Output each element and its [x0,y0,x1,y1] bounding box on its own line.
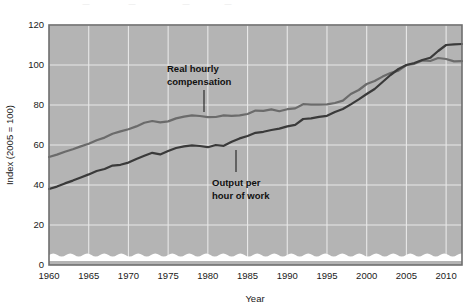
cropped-text-fragment-2: — [183,0,190,7]
x-tick-label-1960: 1960 [38,270,59,281]
x-tick-label-1970: 1970 [118,270,139,281]
y-tick-label-80: 80 [33,99,44,110]
x-tick-label-1985: 1985 [237,270,258,281]
cropped-text-fragment-0: — [83,0,90,7]
annotation-compensation-line2: compensation [167,76,232,87]
x-tick-label-1995: 1995 [316,270,337,281]
cropped-text-fragment-1: — [129,0,136,7]
x-tick-label-1965: 1965 [78,270,99,281]
x-tick-label-2005: 2005 [396,270,417,281]
y-axis-title: Index (2005 = 100) [4,105,15,185]
y-tick-label-0: 0 [39,259,44,270]
annotation-compensation-line1: Real hourly [167,63,219,74]
annotation-output-line1: Output per [212,177,261,188]
cropped-text-fragment-3: — [225,0,232,7]
y-tick-label-100: 100 [28,59,44,70]
y-tick-label-20: 20 [33,219,44,230]
x-tick-label-2000: 2000 [356,270,377,281]
annotation-output-line2: hour of work [212,190,270,201]
x-tick-label-1990: 1990 [277,270,298,281]
y-tick-label-40: 40 [33,179,44,190]
x-axis-title: Year [245,293,264,304]
x-tick-label-2010: 2010 [436,270,457,281]
x-tick-label-1980: 1980 [197,270,218,281]
x-tick-label-1975: 1975 [158,270,179,281]
productivity-compensation-line-chart: ———— 020406080100120 1960196519701975198… [0,0,474,308]
y-tick-label-60: 60 [33,139,44,150]
chart-figure: ———— 020406080100120 1960196519701975198… [0,0,474,308]
y-tick-label-120: 120 [28,19,44,30]
